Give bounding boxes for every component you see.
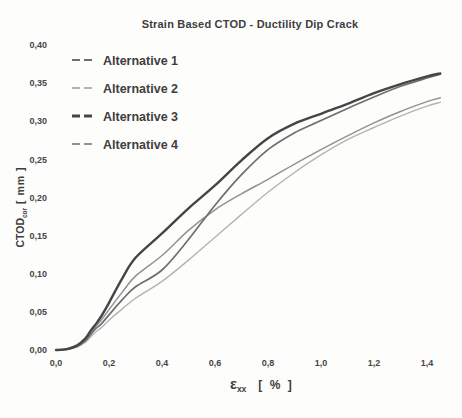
y-axis-subscript: cor (21, 207, 28, 218)
x-axis-subscript: xx (237, 384, 247, 394)
legend-item: Alternative 3 (72, 110, 178, 124)
y-axis-name: CTOD (14, 218, 26, 248)
y-tick-label: 0,10 (29, 269, 47, 279)
legend-item: Alternative 1 (72, 54, 178, 68)
x-axis-label: εxx[ % ] (230, 376, 294, 394)
y-tick-label: 0,40 (29, 40, 47, 50)
legend-label: Alternative 4 (103, 138, 178, 152)
x-tick-label: 0,6 (209, 358, 222, 368)
scanned-figure-page: Strain Based CTOD - Ductility Dip Crack0… (0, 0, 462, 418)
x-tick-label: 1,2 (368, 358, 381, 368)
y-tick-label: 0,15 (29, 231, 47, 241)
chart-title: Strain Based CTOD - Ductility Dip Crack (142, 18, 359, 30)
x-tick-label: 0,8 (262, 358, 275, 368)
legend-label: Alternative 1 (103, 54, 178, 68)
x-tick-label: 1,4 (421, 358, 434, 368)
x-tick-label: 0,0 (50, 358, 63, 368)
y-axis-label: CTODcor[ mm ] (14, 166, 28, 247)
x-axis-units: [ % ] (258, 378, 293, 392)
legend-item: Alternative 2 (72, 82, 178, 96)
x-tick-label: 1,0 (315, 358, 328, 368)
y-tick-label: 0,05 (29, 307, 47, 317)
y-tick-label: 0,00 (29, 345, 47, 355)
ctod-strain-chart: Strain Based CTOD - Ductility Dip Crack0… (0, 0, 462, 418)
y-axis-units: [ mm ] (14, 166, 26, 204)
x-tick-label: 0,2 (103, 358, 116, 368)
y-tick-label: 0,35 (29, 78, 47, 88)
y-tick-label: 0,30 (29, 116, 47, 126)
series-line-alternative-4 (56, 98, 440, 350)
x-tick-label: 0,4 (156, 358, 169, 368)
legend-label: Alternative 2 (103, 82, 178, 96)
legend-label: Alternative 3 (103, 110, 178, 124)
legend-item: Alternative 4 (72, 138, 178, 152)
y-tick-label: 0,20 (29, 193, 47, 203)
y-tick-label: 0,25 (29, 155, 47, 165)
